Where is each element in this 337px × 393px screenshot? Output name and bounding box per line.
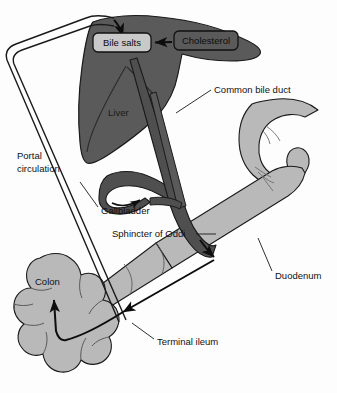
bile-salts-label: Bile salts [103,37,141,48]
terminal-ileum-label: Terminal ileum [157,336,218,347]
sphincter-of-oddi-label: Sphincter of Oddi [112,228,185,239]
gallbladder-label: Gallbladder [101,205,150,216]
portal-circulation-label-line2: circulation [17,163,60,174]
anatomy-diagram: Bile salts Cholesterol Common bile duct … [0,0,337,393]
colon-label: Colon [35,276,60,287]
cholesterol-to-bile-salts-arrow [155,42,172,43]
bile-salts-node[interactable]: Bile salts [93,33,151,52]
cholesterol-label: Cholesterol [182,35,230,46]
portal-circulation-label-line1: Portal [17,150,42,161]
diagram-canvas: Bile salts Cholesterol Common bile duct … [0,0,337,393]
liver-label: Liver [108,107,129,118]
cholesterol-node[interactable]: Cholesterol [174,31,238,50]
duodenum-label: Duodenum [275,270,322,281]
common-bile-duct-label: Common bile duct [214,84,291,95]
